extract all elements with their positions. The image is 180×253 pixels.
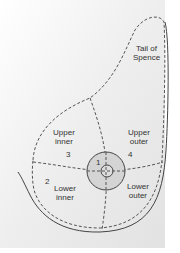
background-panel — [0, 0, 165, 248]
label-upper-inner: Upper inner — [53, 128, 75, 146]
number-lower-inner: 2 — [45, 177, 49, 186]
diagram-graphic — [0, 0, 180, 253]
breast-quadrant-diagram: Tail of Spence Upper inner 3 Upper outer… — [0, 0, 180, 253]
label-tail-of-spence: Tail of Spence — [133, 44, 160, 62]
label-lower-outer: Lower outer — [127, 182, 149, 200]
label-upper-outer: Upper outer — [128, 128, 150, 146]
label-lower-inner: Lower inner — [54, 184, 76, 202]
number-upper-inner: 3 — [66, 150, 70, 159]
number-central: 1 — [96, 158, 100, 167]
number-upper-outer: 4 — [128, 150, 132, 159]
